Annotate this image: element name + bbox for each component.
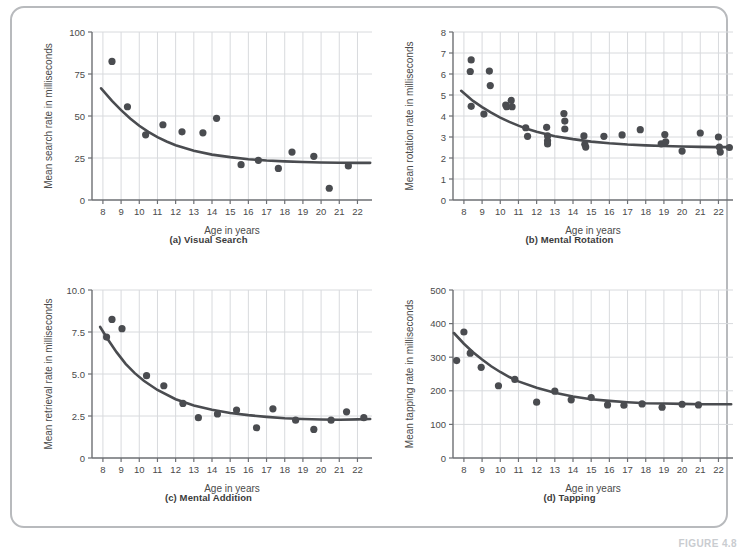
x-tick-label: 19 [659,464,670,475]
x-tick-label: 13 [550,464,561,475]
x-tick-label: 15 [225,206,236,217]
x-tick-label: 17 [261,464,272,475]
x-tick-label: 12 [531,206,542,217]
y-tick-label: 400 [430,318,446,329]
x-tick-label: 8 [461,464,466,475]
x-tick-label: 19 [298,206,309,217]
chart-svg-b: 0123456788910111213141516171819202122Age… [397,18,742,250]
data-point [108,58,115,65]
y-tick-label: 100 [69,27,85,38]
data-point [580,132,587,139]
data-point [195,414,202,421]
chart-svg-d: 0100200300400500891011121314151617181920… [397,276,742,508]
data-point [551,388,558,395]
y-tick-label: 3 [441,132,446,143]
data-point [343,408,350,415]
data-point [662,138,669,145]
data-point [143,372,150,379]
panel-mental-rotation: 0123456788910111213141516171819202122Age… [397,18,742,270]
data-point [214,410,221,417]
y-tick-label: 7.5 [72,327,85,338]
data-point [237,161,244,168]
y-tick-label: 100 [430,419,446,430]
x-tick-label: 9 [479,206,484,217]
data-point [327,417,334,424]
data-point [213,115,220,122]
data-point [142,131,149,138]
data-point [620,402,627,409]
y-tick-label: 2 [441,153,446,164]
data-point [160,382,167,389]
x-tick-label: 18 [279,206,290,217]
data-point [658,404,665,411]
data-point [179,400,186,407]
x-tick-label: 11 [153,206,163,217]
x-tick-label: 9 [118,464,123,475]
data-point [678,147,685,154]
data-point [661,131,668,138]
chart-svg-c: 02.55.07.510.089101112131415161718192021… [36,276,381,508]
y-tick-label: 10.0 [67,285,86,296]
data-point [618,131,625,138]
data-point [486,67,493,74]
x-tick-label: 11 [514,464,524,475]
x-tick-label: 8 [100,206,105,217]
y-tick-label: 6 [441,69,446,80]
x-tick-label: 21 [334,206,345,217]
y-tick-label: 50 [74,111,85,122]
data-point [460,328,467,335]
x-tick-label: 12 [170,464,181,475]
figure-number-label: FIGURE 4.8 [679,538,737,549]
x-tick-label: 22 [713,464,724,475]
plot-area-c: 02.55.07.510.089101112131415161718192021… [43,285,372,495]
data-point [561,125,568,132]
x-tick-label: 16 [243,464,254,475]
data-point [524,133,531,140]
fit-curve [100,327,370,420]
data-point [468,56,475,63]
data-point [118,325,125,332]
data-point [487,82,494,89]
data-point [697,129,704,136]
panel-visual-search: 02550751008910111213141516171819202122Ag… [36,18,381,270]
plot-area-a: 02550751008910111213141516171819202122Ag… [43,27,372,237]
data-point [199,129,206,136]
data-point [560,110,567,117]
data-point [568,396,575,403]
x-tick-label: 15 [586,206,597,217]
data-point [326,185,333,192]
y-tick-label: 300 [430,352,446,363]
panel-mental-addition: 02.55.07.510.089101112131415161718192021… [36,276,381,528]
data-point [292,417,299,424]
x-tick-label: 11 [153,464,163,475]
data-point [695,401,702,408]
panel-tapping: 0100200300400500891011121314151617181920… [397,276,742,528]
fit-curve [461,91,731,147]
x-tick-label: 14 [207,464,218,475]
x-tick-label: 14 [207,206,218,217]
y-tick-label: 75 [74,69,85,80]
plot-area-b: 0123456788910111213141516171819202122Age… [404,27,733,237]
y-axis-title: Mean tapping rate in milliseconds [404,300,415,448]
x-tick-label: 9 [118,206,123,217]
y-axis-title: Mean search rate in milliseconds [43,43,54,189]
data-point [269,405,276,412]
data-point [561,117,568,124]
data-point [468,103,475,110]
x-tick-label: 20 [316,464,327,475]
data-point [522,124,529,131]
panel-caption-b: (b) Mental Rotation [397,234,742,245]
y-tick-label: 5.0 [72,369,85,380]
y-tick-label: 8 [441,27,446,38]
chart-svg-a: 02550751008910111213141516171819202122Ag… [36,18,381,250]
data-point [108,316,115,323]
data-point [588,394,595,401]
y-axis-title: Mean rotation rate in milliseconds [404,42,415,191]
data-point [467,350,474,357]
data-point [233,407,240,414]
data-point [582,143,589,150]
y-tick-label: 0 [441,195,446,206]
data-point [508,97,515,104]
data-point [310,426,317,433]
fit-curve [101,88,370,163]
